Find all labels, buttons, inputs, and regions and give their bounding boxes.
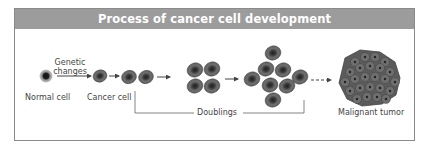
normal-cell-icon: [40, 70, 52, 82]
genetic-label-line1: Genetic: [52, 58, 88, 67]
eight-cells-icon: [242, 44, 310, 110]
genetic-changes-label: Genetic changes: [52, 58, 88, 76]
two-cells-icon: [120, 68, 156, 85]
four-cells-icon: [185, 60, 222, 96]
normal-cell-label: Normal cell: [25, 93, 70, 102]
malignant-tumor-label: Malignant tumor: [338, 108, 404, 117]
cancer-cell-label: Cancer cell: [87, 93, 131, 102]
cancer-cell-icon: [91, 68, 108, 84]
genetic-label-line2: changes: [52, 67, 88, 76]
malignant-tumor-icon: [339, 50, 400, 106]
doublings-label: Doublings: [197, 108, 237, 117]
doublings-bracket-left: [135, 91, 194, 113]
